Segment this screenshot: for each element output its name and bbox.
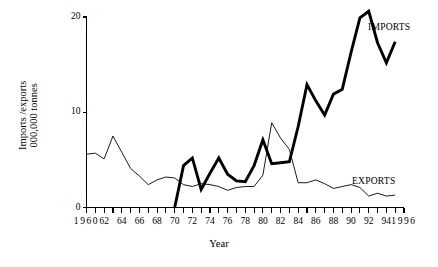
x-axis-title: Year bbox=[0, 238, 438, 249]
y-axis-tick-label: 10 bbox=[51, 107, 81, 117]
y-axis-tick-label: 0 bbox=[51, 203, 81, 213]
series-label-imports: IMPORTS bbox=[368, 21, 410, 32]
chart-plot-area bbox=[0, 0, 438, 267]
y-axis-title: Imports /exports 000,000 tonnes bbox=[17, 40, 40, 190]
x-axis-tick-label: 1996 bbox=[384, 217, 424, 227]
series-line-exports bbox=[87, 123, 396, 196]
y-axis-tick-label: 20 bbox=[51, 12, 81, 22]
series-label-exports: EXPORTS bbox=[352, 175, 395, 186]
chart-series-group bbox=[87, 11, 396, 207]
chart-figure: 01020 1960626466687072747678808284868890… bbox=[0, 0, 438, 267]
y-axis-title-line2: 000,000 tonnes bbox=[28, 40, 39, 190]
y-axis-title-line1: Imports /exports bbox=[17, 40, 28, 190]
